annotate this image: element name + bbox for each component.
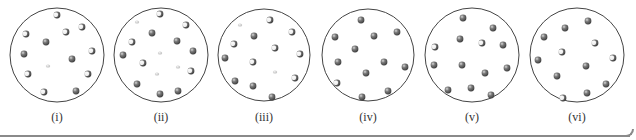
particle-faint-icon [46,64,50,67]
particle-solid-icon [352,46,359,53]
particle-mixed-icon [271,45,278,52]
particle-solid-icon [500,42,507,49]
panel-label-iv: (iv) [359,110,376,125]
particle-solid-icon [69,56,76,63]
particle-solid-icon [157,91,164,98]
panel-label-i: (i) [51,110,62,125]
particle-mixed-icon [333,80,340,87]
particle-solid-icon [583,63,590,70]
particle-solid-icon [358,17,365,24]
particle-mixed-icon [478,40,485,47]
particle-solid-icon [190,48,197,55]
particle-solid-icon [460,15,467,22]
particle-solid-icon [359,94,366,101]
particle-mixed-icon [22,31,29,38]
particle-solid-icon [535,57,542,64]
particle-solid-icon [120,52,127,59]
particle-mixed-icon [288,29,295,36]
container-outline [114,8,208,102]
particle-solid-icon [585,18,592,25]
particle-solid-icon [385,88,392,95]
particle-mixed-icon [187,68,194,75]
container-panel-2 [114,8,208,102]
particle-solid-icon [554,73,561,80]
particle-solid-icon [445,87,452,94]
container-panel-5 [425,8,519,102]
particle-solid-icon [73,88,80,95]
particle-faint-icon [135,20,139,23]
container-panel-4 [322,9,414,101]
particle-solid-icon [482,70,489,77]
particle-solid-icon [490,25,497,32]
particle-solid-icon [43,39,50,46]
particle-mixed-icon [291,75,298,82]
particle-solid-icon [541,34,548,41]
particle-mixed-icon [24,71,31,78]
particle-solid-icon [457,36,464,43]
particle-solid-icon [149,30,156,37]
panel-label-v: (v) [465,110,479,125]
particle-solid-icon [603,81,610,88]
particle-solid-icon [381,59,388,66]
particle-mixed-icon [78,24,85,31]
container-outline [218,9,310,101]
particle-faint-icon [273,70,277,73]
particle-mixed-icon [431,44,438,51]
containers-figure [0,0,636,140]
particle-solid-icon [363,70,370,77]
particle-solid-icon [250,83,257,90]
particle-mixed-icon [40,89,47,96]
particle-faint-icon [158,51,162,54]
particle-diagram: (i) (ii) (iii) (iv) (v) (vi) [0,0,636,140]
particle-mixed-icon [139,60,146,67]
particle-mixed-icon [296,51,303,58]
particle-mixed-icon [230,41,237,48]
particle-faint-icon [155,72,159,75]
particle-solid-icon [335,59,342,66]
container-outline [322,9,414,101]
particle-faint-icon [176,65,180,68]
particle-solid-icon [332,34,339,41]
particle-mixed-icon [266,17,273,24]
particle-solid-icon [468,85,475,92]
particle-mixed-icon [84,71,91,78]
particle-solid-icon [459,62,466,69]
panel-label-iii: (iii) [255,110,273,125]
panel-label-vi: (vi) [568,110,585,125]
particle-faint-icon [238,23,242,26]
particle-solid-icon [232,78,239,85]
particle-solid-icon [431,62,438,69]
particle-mixed-icon [182,22,189,29]
particle-solid-icon [488,92,495,99]
particle-solid-icon [371,33,378,40]
particle-mixed-icon [591,40,598,47]
particle-solid-icon [584,90,591,97]
particle-mixed-icon [558,49,565,56]
particle-solid-icon [269,94,276,101]
particle-mixed-icon [88,48,95,55]
particle-solid-icon [21,51,28,58]
particle-solid-icon [174,38,181,45]
particle-solid-icon [402,64,409,71]
container-panel-6 [530,8,624,102]
particle-solid-icon [222,55,229,62]
particle-mixed-icon [62,29,69,36]
particle-solid-icon [504,65,511,72]
panel-label-ii: (ii) [154,110,169,125]
particle-solid-icon [562,25,569,32]
container-outline [530,8,624,102]
particle-mixed-icon [559,95,566,102]
particle-mixed-icon [53,12,60,19]
particle-mixed-icon [156,11,163,18]
container-panel-1 [10,8,104,102]
container-panel-3 [218,9,310,101]
particle-mixed-icon [128,39,135,46]
particle-solid-icon [251,33,258,40]
particle-mixed-icon [609,55,616,62]
particle-mixed-icon [249,59,256,66]
particle-solid-icon [394,29,401,36]
particle-solid-icon [175,88,182,95]
divider-line [0,135,630,137]
particle-solid-icon [134,81,141,88]
